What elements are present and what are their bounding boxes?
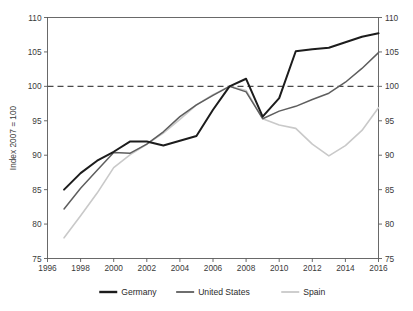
- chart-container: 7575808085859090959510010010510511011019…: [0, 0, 413, 311]
- x-axis-tick-label: 2000: [104, 263, 123, 273]
- x-axis-tick-label: 2006: [204, 263, 223, 273]
- series-line-united-states: [64, 53, 378, 209]
- y-axis-tick-label-right: 75: [385, 254, 395, 264]
- legend-label-spain: Spain: [303, 287, 325, 297]
- y-axis-title: Index 2007 = 100: [8, 105, 18, 170]
- legend-label-united-states: United States: [198, 287, 250, 297]
- series-line-spain: [64, 86, 378, 237]
- plot-frame: [48, 18, 379, 259]
- legend-label-germany: Germany: [121, 287, 157, 297]
- x-axis-tick-label: 2016: [369, 263, 388, 273]
- x-axis-tick-label: 2004: [171, 263, 190, 273]
- x-axis-tick-label: 2010: [270, 263, 289, 273]
- y-axis-tick-label: 105: [28, 47, 42, 57]
- y-axis-tick-label: 90: [32, 150, 42, 160]
- y-axis-tick-label-right: 90: [385, 150, 395, 160]
- y-axis-tick-label: 110: [28, 13, 42, 23]
- x-axis-tick-label: 2008: [237, 263, 256, 273]
- line-chart: 7575808085859090959510010010510511011019…: [0, 0, 413, 311]
- series-line-germany: [64, 33, 378, 189]
- y-axis-tick-label: 100: [28, 81, 42, 91]
- y-axis-tick-label-right: 110: [385, 13, 399, 23]
- y-axis-tick-label-right: 80: [385, 219, 395, 229]
- x-axis-tick-label: 2014: [336, 263, 355, 273]
- y-axis-tick-label: 85: [32, 185, 42, 195]
- x-axis-tick-label: 1998: [71, 263, 90, 273]
- x-axis-tick-label: 1996: [38, 263, 57, 273]
- y-axis-tick-label-right: 105: [385, 47, 399, 57]
- y-axis-tick-label: 80: [32, 219, 42, 229]
- y-axis-tick-label: 95: [32, 116, 42, 126]
- y-axis-tick-label-right: 100: [385, 81, 399, 91]
- y-axis-tick-label-right: 85: [385, 185, 395, 195]
- y-axis-tick-label: 75: [32, 254, 42, 264]
- x-axis-tick-label: 2012: [303, 263, 322, 273]
- y-axis-tick-label-right: 95: [385, 116, 395, 126]
- x-axis-tick-label: 2002: [138, 263, 157, 273]
